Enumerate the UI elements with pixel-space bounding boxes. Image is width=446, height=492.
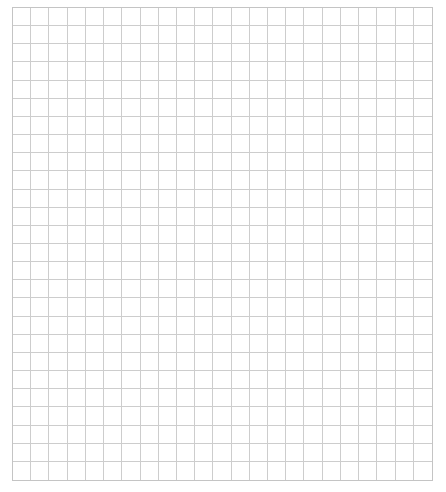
grid-cell xyxy=(49,62,67,80)
grid-cell xyxy=(68,171,86,189)
grid-cell xyxy=(195,262,213,280)
grid-cell xyxy=(377,244,395,262)
grid-cell xyxy=(49,190,67,208)
grid-cell xyxy=(250,389,268,407)
grid-cell xyxy=(341,371,359,389)
grid-cell xyxy=(104,171,122,189)
grid-cell xyxy=(359,426,377,444)
grid-cell xyxy=(13,135,31,153)
grid-cell xyxy=(177,262,195,280)
grid-cell xyxy=(159,353,177,371)
grid-cell xyxy=(13,208,31,226)
grid-cell xyxy=(396,62,414,80)
grid-cell xyxy=(31,262,49,280)
grid-cell xyxy=(304,389,322,407)
grid-cell xyxy=(195,335,213,353)
grid-cell xyxy=(177,117,195,135)
grid-cell xyxy=(49,389,67,407)
grid-cell xyxy=(104,99,122,117)
grid-cell xyxy=(232,407,250,425)
grid-cell xyxy=(122,353,140,371)
grid-cell xyxy=(323,353,341,371)
grid-cell xyxy=(49,426,67,444)
grid-cell xyxy=(122,262,140,280)
grid-cell xyxy=(286,389,304,407)
grid-cell xyxy=(122,407,140,425)
grid-cell xyxy=(377,317,395,335)
grid-cell xyxy=(49,353,67,371)
grid-cell xyxy=(213,407,231,425)
grid-cell xyxy=(323,8,341,26)
grid-cell xyxy=(304,190,322,208)
grid-cell xyxy=(49,135,67,153)
grid-cell xyxy=(232,353,250,371)
grid-cell xyxy=(377,190,395,208)
grid-cell xyxy=(141,317,159,335)
grid-cell xyxy=(159,389,177,407)
grid-cell xyxy=(213,244,231,262)
grid-cell xyxy=(122,426,140,444)
grid-cell xyxy=(195,62,213,80)
grid-cell xyxy=(49,407,67,425)
grid-cell xyxy=(213,335,231,353)
grid-cell xyxy=(304,244,322,262)
grid-cell xyxy=(377,81,395,99)
grid-cell xyxy=(31,335,49,353)
grid-cell xyxy=(177,44,195,62)
grid-cell xyxy=(359,135,377,153)
grid-cell xyxy=(195,99,213,117)
grid-cell xyxy=(232,135,250,153)
grid-cell xyxy=(414,371,432,389)
grid-cell xyxy=(359,26,377,44)
grid-cell xyxy=(286,317,304,335)
grid-cell xyxy=(286,117,304,135)
grid-cell xyxy=(68,117,86,135)
grid-cell xyxy=(177,389,195,407)
grid-cell xyxy=(31,353,49,371)
grid-cell xyxy=(286,298,304,316)
grid-cell xyxy=(304,335,322,353)
grid-cell xyxy=(304,44,322,62)
grid-cell xyxy=(177,280,195,298)
grid-cell xyxy=(122,389,140,407)
grid-cell xyxy=(159,99,177,117)
grid-cell xyxy=(49,171,67,189)
grid-cell xyxy=(68,190,86,208)
grid-cell xyxy=(104,81,122,99)
grid-cell xyxy=(122,371,140,389)
grid-cell xyxy=(377,44,395,62)
grid-cell xyxy=(86,244,104,262)
grid-cell xyxy=(177,298,195,316)
grid-cell xyxy=(341,462,359,480)
grid-cell xyxy=(159,462,177,480)
grid-cell xyxy=(396,389,414,407)
grid-cell xyxy=(250,317,268,335)
grid-cell xyxy=(377,62,395,80)
grid-cell xyxy=(250,371,268,389)
grid-cell xyxy=(159,117,177,135)
grid-cell xyxy=(341,190,359,208)
grid-cell xyxy=(323,444,341,462)
grid-cell xyxy=(341,117,359,135)
grid-cell xyxy=(268,317,286,335)
grid-cell xyxy=(141,190,159,208)
grid-cell xyxy=(49,117,67,135)
grid-cell xyxy=(177,26,195,44)
grid-cell xyxy=(49,99,67,117)
grid-cell xyxy=(49,226,67,244)
grid-cell xyxy=(86,81,104,99)
grid-cell xyxy=(68,226,86,244)
grid-cell xyxy=(13,226,31,244)
grid-cell xyxy=(104,280,122,298)
grid-cell xyxy=(104,226,122,244)
grid-cell xyxy=(213,262,231,280)
grid-cell xyxy=(232,298,250,316)
grid-cell xyxy=(286,226,304,244)
grid-cell xyxy=(13,99,31,117)
grid-cell xyxy=(268,226,286,244)
grid-cell xyxy=(304,444,322,462)
grid-cell xyxy=(377,262,395,280)
grid-cell xyxy=(396,81,414,99)
grid-cell xyxy=(359,407,377,425)
grid-cell xyxy=(86,262,104,280)
